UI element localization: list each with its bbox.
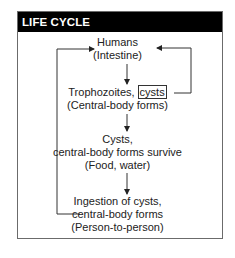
node-humans-line1: Humans [0,36,235,49]
node-ingestion-line3: (Person-to-person) [0,221,235,234]
node-trophozoites-line1: Trophozoites, cysts [0,86,235,99]
node-humans-line2: (Intestine) [0,49,235,62]
node-cysts-line3: (Food, water) [0,159,235,172]
trophozoites-label: Trophozoites, [68,86,137,98]
node-ingestion-line2: central-body forms [0,208,235,221]
arrow-ingestion-to-humans [57,49,94,214]
node-cysts-line2: central-body forms survive [0,146,235,159]
cysts-boxed-label: cysts [138,85,167,99]
node-cysts-line1: Cysts, [0,133,235,146]
node-ingestion-line1: Ingestion of cysts, [0,195,235,208]
node-trophozoites-line2: (Central-body forms) [0,99,235,112]
